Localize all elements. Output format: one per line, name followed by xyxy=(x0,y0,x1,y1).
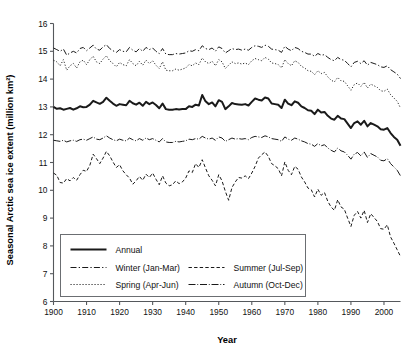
y-tick-label-11: 11 xyxy=(39,158,48,168)
y-tick-label-12: 12 xyxy=(38,130,48,140)
y-tick-label-16: 16 xyxy=(38,19,48,29)
y-tick-label-13: 13 xyxy=(38,102,48,112)
y-tick-label-8: 8 xyxy=(43,241,48,251)
y-tick-label-6: 6 xyxy=(43,297,48,307)
legend-label-summer: Summer (Jul-Sep) xyxy=(234,263,304,273)
legend-label-winter: Winter (Jan-Mar) xyxy=(116,263,181,273)
y-tick-label-7: 7 xyxy=(43,269,48,279)
x-tick-label-1990: 1990 xyxy=(342,307,361,317)
y-tick-label-14: 14 xyxy=(38,74,48,84)
legend-label-spring: Spring (Apr-Jun) xyxy=(116,280,179,290)
x-tick-label-1930: 1930 xyxy=(143,307,162,317)
x-tick-label-1980: 1980 xyxy=(309,307,328,317)
x-tick-label-1950: 1950 xyxy=(209,307,228,317)
x-tick-label-1910: 1910 xyxy=(77,307,96,317)
legend-label-autumn: Autumn (Oct-Dec) xyxy=(234,280,303,290)
x-tick-label-1970: 1970 xyxy=(276,307,295,317)
chart-canvas: Seasonal Arctic sea ice extent (million … xyxy=(0,0,411,349)
x-axis-title: Year xyxy=(217,335,237,345)
y-axis-title: Seasonal Arctic sea ice extent (million … xyxy=(5,75,15,266)
x-tick-label-1960: 1960 xyxy=(242,307,261,317)
x-tick-label-1920: 1920 xyxy=(110,307,129,317)
x-tick-label-1900: 1900 xyxy=(44,307,63,317)
y-tick-label-15: 15 xyxy=(38,46,48,56)
legend-label-annual: Annual xyxy=(116,245,143,255)
x-tick-label-1940: 1940 xyxy=(176,307,195,317)
y-tick-label-10: 10 xyxy=(38,185,48,195)
x-tick-label-2000: 2000 xyxy=(375,307,394,317)
y-tick-label-9: 9 xyxy=(43,213,48,223)
seasonal-arctic-sea-ice-extent-chart: Seasonal Arctic sea ice extent (million … xyxy=(0,0,411,349)
